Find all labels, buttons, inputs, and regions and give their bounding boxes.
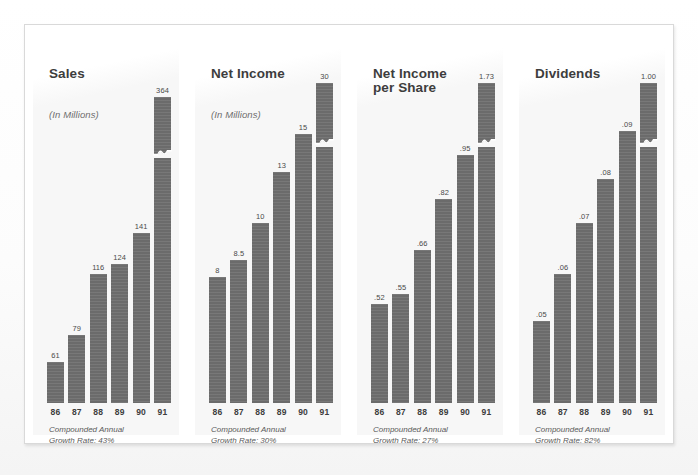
- year-tick-label: 86: [47, 407, 64, 417]
- bar: .05: [533, 321, 550, 403]
- year-tick-label: 91: [316, 407, 333, 417]
- bar-column: 141: [133, 63, 150, 403]
- bar: 61: [47, 362, 64, 403]
- plot-area: 88.510131530: [209, 63, 333, 403]
- year-tick-label: 91: [154, 407, 171, 417]
- x-axis-year-labels: 868788899091: [47, 407, 171, 417]
- year-tick-label: 90: [619, 407, 636, 417]
- bar: .07: [576, 223, 593, 403]
- bar: .66: [414, 250, 431, 403]
- bar-column: 1.00: [640, 63, 657, 403]
- year-tick-label: 87: [554, 407, 571, 417]
- bar-value-label: 1.00: [641, 72, 656, 81]
- bar-column: 1.73: [478, 63, 495, 403]
- bar-column: 79: [68, 63, 85, 403]
- bar-value-label: 13: [277, 161, 286, 170]
- bar-column: .52: [371, 63, 388, 403]
- bar-column: 15: [295, 63, 312, 403]
- year-tick-label: 89: [435, 407, 452, 417]
- bar: 79: [68, 335, 85, 403]
- bar-value-label: .95: [460, 144, 471, 153]
- year-tick-label: 90: [295, 407, 312, 417]
- x-axis-year-labels: 868788899091: [371, 407, 495, 417]
- year-tick-label: 88: [414, 407, 431, 417]
- bar-column: .95: [457, 63, 474, 403]
- year-tick-label: 89: [111, 407, 128, 417]
- bar-column: 10: [252, 63, 269, 403]
- bar: 8.5: [230, 260, 247, 403]
- bar-value-label: 141: [135, 222, 148, 231]
- year-tick-label: 91: [640, 407, 657, 417]
- bar-column: .82: [435, 63, 452, 403]
- bar: 364: [154, 97, 171, 403]
- year-tick-label: 89: [597, 407, 614, 417]
- bar-column: .05: [533, 63, 550, 403]
- bar: 15: [295, 134, 312, 403]
- bar-column: .55: [392, 63, 409, 403]
- bar-group: .52.55.66.82.951.73: [371, 63, 495, 403]
- bar-value-label: .05: [536, 310, 547, 319]
- bar: 1.00: [640, 83, 657, 403]
- x-axis-year-labels: 868788899091: [209, 407, 333, 417]
- axis-break-icon: [315, 138, 334, 147]
- bar: .09: [619, 131, 636, 403]
- bar-value-label: 124: [113, 253, 126, 262]
- chart-panel-1: Sales(In Millions)6179116124141364868788…: [25, 25, 187, 443]
- growth-rate-footnote: Compounded Annual Growth Rate: 43%: [49, 425, 124, 446]
- bar: 10: [252, 223, 269, 403]
- chart-panel-3: Net Income per Share.52.55.66.82.951.738…: [349, 25, 511, 443]
- year-tick-label: 87: [68, 407, 85, 417]
- year-tick-label: 86: [533, 407, 550, 417]
- year-tick-label: 86: [371, 407, 388, 417]
- bar-group: .05.06.07.08.091.00: [533, 63, 657, 403]
- panel-content: Sales(In Millions)6179116124141364868788…: [33, 33, 179, 435]
- bar-column: .09: [619, 63, 636, 403]
- bar-value-label: 364: [156, 86, 169, 95]
- bar: 8: [209, 277, 226, 403]
- growth-rate-footnote: Compounded Annual Growth Rate: 27%: [373, 425, 448, 446]
- year-tick-label: 88: [252, 407, 269, 417]
- panel-row: Sales(In Millions)6179116124141364868788…: [25, 25, 673, 443]
- bar: 141: [133, 233, 150, 403]
- bar-value-label: 116: [92, 263, 104, 272]
- year-tick-label: 89: [273, 407, 290, 417]
- bar-value-label: .52: [374, 293, 385, 302]
- report-page: Sales(In Millions)6179116124141364868788…: [0, 0, 698, 475]
- bar: 13: [273, 172, 290, 403]
- bar-column: 30: [316, 63, 333, 403]
- panel-content: Net Income per Share.52.55.66.82.951.738…: [357, 33, 503, 435]
- bar-column: 124: [111, 63, 128, 403]
- bar: 124: [111, 264, 128, 403]
- bar-value-label: 79: [73, 324, 82, 333]
- bar-value-label: 10: [256, 212, 265, 221]
- bar-column: .07: [576, 63, 593, 403]
- bar-column: 13: [273, 63, 290, 403]
- bar: .08: [597, 179, 614, 403]
- axis-break-icon: [477, 138, 496, 147]
- bar-column: .66: [414, 63, 431, 403]
- bar-column: .08: [597, 63, 614, 403]
- bar-value-label: .07: [579, 212, 590, 221]
- bar-value-label: .82: [438, 188, 449, 197]
- bar-value-label: .09: [622, 120, 633, 129]
- bar-column: 61: [47, 63, 64, 403]
- chart-frame: Sales(In Millions)6179116124141364868788…: [24, 24, 674, 444]
- chart-panel-4: Dividends.05.06.07.08.091.00868788899091…: [511, 25, 673, 443]
- year-tick-label: 88: [576, 407, 593, 417]
- bar-value-label: 61: [51, 351, 60, 360]
- bar: 1.73: [478, 83, 495, 403]
- year-tick-label: 91: [478, 407, 495, 417]
- chart-panel-2: Net Income(In Millions)88.51013153086878…: [187, 25, 349, 443]
- bar-value-label: .08: [600, 168, 611, 177]
- bar-column: 8: [209, 63, 226, 403]
- growth-rate-footnote: Compounded Annual Growth Rate: 82%: [535, 425, 610, 446]
- year-tick-label: 88: [90, 407, 107, 417]
- axis-break-icon: [639, 138, 658, 147]
- bar-value-label: 8.5: [233, 249, 244, 258]
- bar-value-label: .66: [417, 239, 428, 248]
- bar-column: 364: [154, 63, 171, 403]
- bar: .95: [457, 155, 474, 403]
- bar-value-label: 1.73: [479, 72, 494, 81]
- panel-content: Dividends.05.06.07.08.091.00868788899091…: [519, 33, 665, 435]
- growth-rate-footnote: Compounded Annual Growth Rate: 30%: [211, 425, 286, 446]
